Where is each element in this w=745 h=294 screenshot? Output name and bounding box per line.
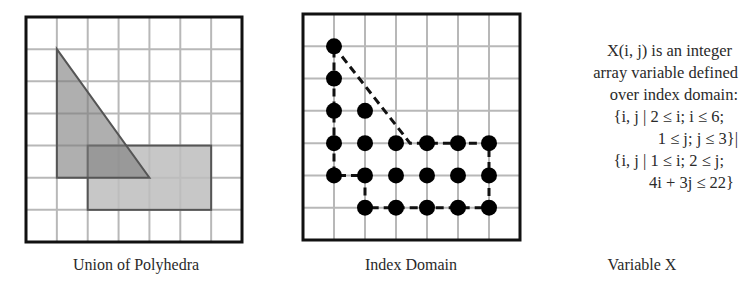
desc-line-4: {i, j | 2 ≤ i; i ≤ 6; bbox=[548, 106, 738, 128]
desc-line-5: 1 ≤ j; j ≤ 3}| bbox=[548, 128, 738, 150]
index-point bbox=[357, 167, 373, 183]
index-point bbox=[481, 200, 497, 216]
index-point bbox=[326, 103, 342, 119]
desc-line-2: array variable defined bbox=[548, 62, 738, 84]
index-point bbox=[450, 167, 466, 183]
union-of-polyhedra-caption: Union of Polyhedra bbox=[62, 256, 210, 274]
desc-line-1: X(i, j) is an integer bbox=[548, 40, 738, 62]
index-point bbox=[326, 38, 342, 54]
index-points bbox=[326, 38, 497, 215]
index-point bbox=[326, 167, 342, 183]
variable-x-caption: Variable X bbox=[596, 256, 688, 274]
index-point bbox=[419, 200, 435, 216]
index-point bbox=[326, 135, 342, 151]
index-point bbox=[450, 200, 466, 216]
index-point bbox=[357, 135, 373, 151]
index-point bbox=[388, 135, 404, 151]
index-domain-caption: Index Domain bbox=[348, 256, 474, 274]
index-point bbox=[419, 167, 435, 183]
desc-line-6: {i, j | 1 ≤ i; 2 ≤ j; bbox=[548, 150, 738, 172]
index-point bbox=[388, 200, 404, 216]
desc-line-7: 4i + 3j ≤ 22} bbox=[548, 172, 738, 194]
index-point bbox=[419, 135, 435, 151]
index-point bbox=[357, 200, 373, 216]
index-point bbox=[450, 135, 466, 151]
index-point bbox=[357, 103, 373, 119]
index-point bbox=[481, 135, 497, 151]
desc-line-3: over index domain: bbox=[548, 84, 738, 106]
variable-x-description: X(i, j) is an integer array variable def… bbox=[548, 40, 738, 194]
domain-outline bbox=[334, 46, 489, 207]
index-point bbox=[481, 167, 497, 183]
index-point bbox=[326, 71, 342, 87]
index-point bbox=[388, 167, 404, 183]
